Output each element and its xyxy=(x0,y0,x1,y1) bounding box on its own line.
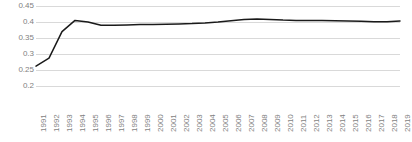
gridline-0.2 xyxy=(36,86,400,87)
x-tick-label: 2012 xyxy=(313,114,321,132)
x-tick-label: 1998 xyxy=(131,114,139,132)
y-tick-label: 0.35 xyxy=(0,34,34,42)
x-tick-label: 1996 xyxy=(105,114,113,132)
x-tick-label: 1999 xyxy=(144,114,152,132)
y-tick-label: 0.4 xyxy=(0,18,34,26)
y-tick-label: 0.2 xyxy=(0,82,34,90)
x-tick-label: 2005 xyxy=(222,114,230,132)
x-tick-label: 2006 xyxy=(235,114,243,132)
gridline-0.25 xyxy=(36,70,400,71)
x-tick-label: 2001 xyxy=(170,114,178,132)
x-tick-label: 2015 xyxy=(352,114,360,132)
y-tick-label: 0.45 xyxy=(0,2,34,10)
x-tick-label: 2014 xyxy=(339,114,347,132)
x-tick-label: 1992 xyxy=(53,114,61,132)
x-tick-label: 2002 xyxy=(183,114,191,132)
x-axis: 1991199219931994199519961997199819992000… xyxy=(36,88,400,142)
x-tick-label: 2009 xyxy=(274,114,282,132)
x-tick-label: 1993 xyxy=(66,114,74,132)
y-axis: 0.20.250.30.350.40.45 xyxy=(0,0,34,100)
plot-area xyxy=(36,6,400,86)
gridline-0.4 xyxy=(36,22,400,23)
x-tick-label: 1995 xyxy=(92,114,100,132)
x-tick-label: 2017 xyxy=(378,114,386,132)
gridline-0.3 xyxy=(36,54,400,55)
y-tick-label: 0.25 xyxy=(0,66,34,74)
x-tick-label: 2016 xyxy=(365,114,373,132)
x-tick-label: 2010 xyxy=(287,114,295,132)
y-tick-label: 0.3 xyxy=(0,50,34,58)
x-tick-label: 2011 xyxy=(300,115,308,132)
x-tick-label: 2004 xyxy=(209,114,217,132)
x-tick-label: 2013 xyxy=(326,114,334,132)
x-tick-label: 2018 xyxy=(391,114,399,132)
x-tick-label: 2000 xyxy=(157,114,165,132)
x-tick-label: 2019 xyxy=(404,114,412,132)
gridline-0.35 xyxy=(36,38,400,39)
x-tick-label: 2003 xyxy=(196,114,204,132)
x-tick-label: 2008 xyxy=(261,114,269,132)
x-tick-label: 1997 xyxy=(118,114,126,132)
gridline-0.45 xyxy=(36,6,400,7)
x-tick-label: 2007 xyxy=(248,114,256,132)
x-tick-label: 1994 xyxy=(79,114,87,132)
x-tick-label: 1991 xyxy=(40,114,48,132)
